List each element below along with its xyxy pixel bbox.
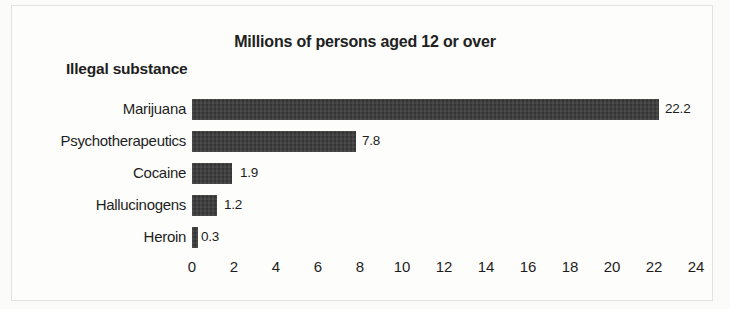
x-tick-label: 24 <box>688 256 705 278</box>
category-label: Marijuana <box>0 98 186 120</box>
category-label: Cocaine <box>0 162 186 184</box>
x-tick-label: 16 <box>520 256 537 278</box>
bar-heroin <box>192 227 198 248</box>
x-tick-label: 6 <box>314 256 322 278</box>
x-tick-label: 10 <box>394 256 411 278</box>
bar-value-label: 0.3 <box>201 226 219 248</box>
x-tick-label: 14 <box>478 256 495 278</box>
bar-chart-figure: Millions of persons aged 12 or over Ille… <box>0 0 730 309</box>
bar-hallucinogens <box>192 195 217 216</box>
bar-row: Hallucinogens 1.2 <box>0 194 730 216</box>
x-tick-label: 18 <box>562 256 579 278</box>
bar-value-label: 7.8 <box>362 130 380 152</box>
x-tick-label: 22 <box>646 256 663 278</box>
x-tick-label: 8 <box>356 256 364 278</box>
category-label: Hallucinogens <box>0 194 186 216</box>
bar-cocaine <box>192 163 232 184</box>
x-axis: 0 2 4 6 8 10 12 14 16 18 20 22 24 <box>0 256 730 282</box>
bar-row: Heroin 0.3 <box>0 226 730 248</box>
x-tick-label: 4 <box>272 256 280 278</box>
x-tick-label: 20 <box>604 256 621 278</box>
bar-marijuana <box>192 99 659 120</box>
bar-psychotherapeutics <box>192 131 356 152</box>
x-tick-label: 2 <box>230 256 238 278</box>
bar-row: Marijuana 22.2 <box>0 98 730 120</box>
bar-row: Cocaine 1.9 <box>0 162 730 184</box>
x-tick-label: 12 <box>436 256 453 278</box>
bar-value-label: 1.9 <box>240 162 258 184</box>
bar-value-label: 22.2 <box>665 98 690 120</box>
bar-row: Psychotherapeutics 7.8 <box>0 130 730 152</box>
bar-value-label: 1.2 <box>224 194 242 216</box>
x-tick-label: 0 <box>188 256 196 278</box>
category-label: Heroin <box>0 226 186 248</box>
category-label: Psychotherapeutics <box>0 130 186 152</box>
